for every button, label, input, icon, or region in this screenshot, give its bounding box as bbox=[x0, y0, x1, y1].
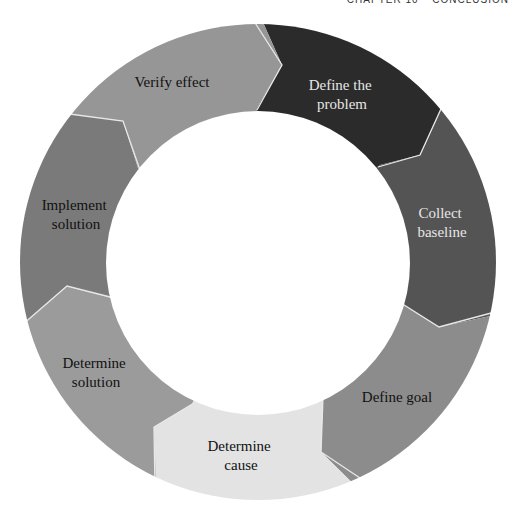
label-verify-effect: Verify effect bbox=[134, 74, 210, 90]
label-define-goal: Define goal bbox=[362, 389, 432, 405]
cycle-diagram: Define the problem Collect baseline Defi… bbox=[0, 0, 509, 510]
